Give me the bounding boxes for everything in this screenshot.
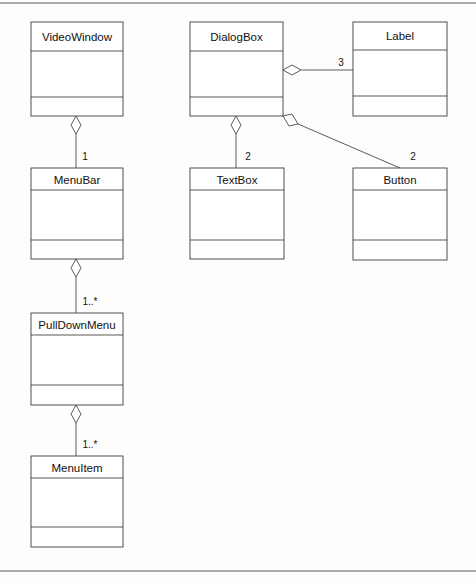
multiplicity-label: 2 [410,151,416,162]
aggregation-diamond-icon [283,114,298,126]
class-name-label: Label [386,30,414,42]
aggregation-diamond-icon [71,116,81,134]
class-box-layer: VideoWindow DialogBox Label MenuBar [31,22,447,547]
multiplicity-label: 1..* [82,439,97,450]
aggregation-diamond-icon [71,405,81,423]
association-menubar-pulldownmenu[interactable]: 1..* [71,259,98,313]
class-name-label: VideoWindow [42,31,113,43]
association-videowindow-menubar[interactable]: 1 [71,116,88,168]
class-box-textbox[interactable]: TextBox [190,168,284,259]
class-name-label: Button [383,174,416,186]
multiplicity-label: 3 [338,57,344,68]
multiplicity-label: 1 [82,151,88,162]
class-box-videowindow[interactable]: VideoWindow [31,22,123,116]
association-dialogbox-label[interactable]: 3 [283,57,353,75]
aggregation-diamond-icon [231,116,241,134]
class-name-label: MenuBar [54,174,101,186]
association-dialogbox-textbox[interactable]: 2 [231,116,251,168]
class-box-label[interactable]: Label [353,22,447,116]
class-name-label: MenuItem [51,462,102,474]
class-box-button[interactable]: Button [353,168,447,260]
class-box-menuitem[interactable]: MenuItem [31,456,123,547]
class-name-label: TextBox [217,174,258,186]
uml-diagram-canvas: 1 1..* 1..* 2 3 [0,0,476,583]
aggregation-diamond-icon [283,65,301,75]
class-box-dialogbox[interactable]: DialogBox [190,22,283,116]
association-line [298,124,400,168]
multiplicity-label: 2 [245,151,251,162]
class-name-label: DialogBox [210,31,263,43]
aggregation-diamond-icon [71,259,81,277]
association-dialogbox-button[interactable]: 2 [283,114,416,168]
multiplicity-label: 1..* [82,296,97,307]
association-pulldownmenu-menuitem[interactable]: 1..* [71,405,98,456]
class-name-label: PullDownMenu [38,319,115,331]
class-box-menubar[interactable]: MenuBar [31,168,123,259]
uml-class-diagram: 1 1..* 1..* 2 3 [0,0,476,583]
class-box-pulldownmenu[interactable]: PullDownMenu [31,313,123,405]
